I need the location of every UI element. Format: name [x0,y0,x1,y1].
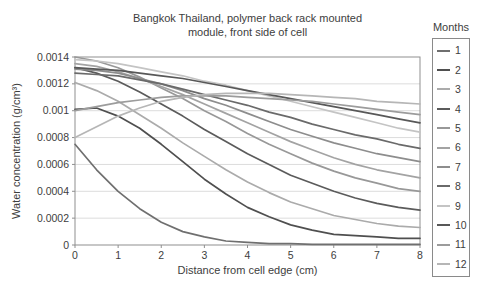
series-month-3 [75,83,420,228]
legend-label: 3 [455,84,461,95]
legend-label: 4 [455,104,461,115]
legend-label: 11 [455,239,466,250]
x-tick-label: 7 [374,249,380,261]
x-tick-label: 5 [288,249,294,261]
legend-swatch [437,147,450,149]
y-tick-label: 0.0012 [37,77,69,89]
legend-swatch [437,224,450,226]
series-month-12 [75,93,420,137]
plot-svg: 00.00020.00040.00060.00080.0010.00120.00… [0,0,498,290]
legend-label: 7 [455,162,461,173]
x-tick-label: 6 [331,249,337,261]
legend-label: 1 [455,45,461,56]
y-tick-label: 0 [63,239,69,251]
legend-item: 7 [433,157,469,176]
series-month-1 [75,144,420,244]
legend-swatch [437,166,450,168]
legend-swatch [437,185,450,187]
legend-item: 2 [433,60,469,79]
x-tick-label: 1 [115,249,121,261]
series-month-7 [75,69,420,162]
chart-figure: Bangkok Thailand, polymer back rack moun… [0,0,498,290]
legend-swatch [437,69,450,71]
legend-label: 2 [455,65,461,76]
y-tick-label: 0.0014 [37,51,69,63]
legend-title: Months [430,21,472,33]
y-tick-label: 0.0008 [37,131,69,143]
legend-swatch [437,50,450,52]
legend-label: 9 [455,201,461,212]
x-tick-label: 0 [72,249,78,261]
y-tick-label: 0.0004 [37,185,69,197]
legend-label: 12 [455,259,467,270]
x-tick-label: 3 [201,249,207,261]
y-tick-label: 0.0006 [37,158,69,170]
legend-label: 8 [455,181,461,192]
legend-swatch [437,263,450,265]
legend-swatch [437,108,450,110]
legend-item: 1 [433,41,469,60]
x-tick-label: 2 [158,249,164,261]
series-month-4 [75,68,420,210]
legend-swatch [437,127,450,129]
legend-item: 8 [433,177,469,196]
series-month-2 [75,108,420,238]
legend-item: 11 [433,235,469,254]
legend-item: 6 [433,138,469,157]
legend-item: 4 [433,99,469,118]
legend-label: 10 [455,220,467,231]
legend-item: 9 [433,196,469,215]
x-tick-label: 8 [417,249,423,261]
legend-item: 12 [433,254,469,273]
legend-swatch [437,205,450,207]
y-tick-label: 0.001 [43,104,69,116]
legend-label: 5 [455,123,461,134]
y-tick-label: 0.0002 [37,212,69,224]
legend-swatch [437,244,450,246]
x-tick-label: 4 [245,249,251,261]
legend-item: 5 [433,119,469,138]
legend-item: 10 [433,216,469,235]
legend-box: 123456789101112 [432,38,470,277]
legend-item: 3 [433,80,469,99]
legend-label: 6 [455,142,461,153]
legend-swatch [437,88,450,90]
